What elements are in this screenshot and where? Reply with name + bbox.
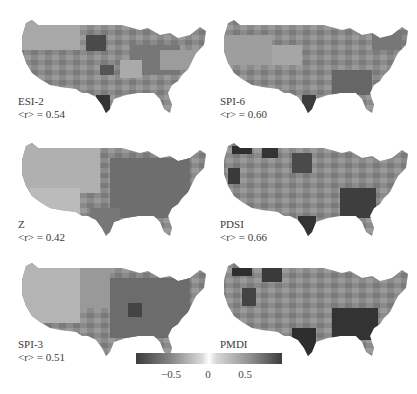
panel-title: SPI-6 [220,95,245,108]
panel-mean-r: <r> = 0.66 [220,231,267,244]
panel-mean-r: <r> = 0.42 [18,231,65,244]
map-panel-pdsi: PDSI <r> = 0.66 [212,128,412,246]
map-panel-pmdi: PMDI <r> = 0.70 [212,248,412,366]
panel-mean-r: <r> = 0.51 [18,351,65,364]
panel-mean-r: <r> = 0.54 [18,108,65,121]
panel-title: ESI-2 [18,95,44,108]
panel-title: PMDI [220,338,248,351]
map-panel-z: Z <r> = 0.42 [10,128,210,246]
colorbar-tick: −0.5 [161,368,181,380]
map-panel-esi2: ESI-2 <r> = 0.54 [10,5,210,123]
colorbar [136,353,282,364]
colorbar-tick: 0.5 [238,368,252,380]
usa-map [10,128,210,246]
panel-title: Z [18,218,25,231]
panel-title: PDSI [220,218,244,231]
panel-title: SPI-3 [18,338,43,351]
colorbar-tick: 0 [205,368,211,380]
panel-mean-r: <r> = 0.60 [220,108,267,121]
map-panel-spi3: SPI-3 <r> = 0.51 [10,248,210,366]
map-panel-spi6: SPI-6 <r> = 0.60 [212,5,412,123]
